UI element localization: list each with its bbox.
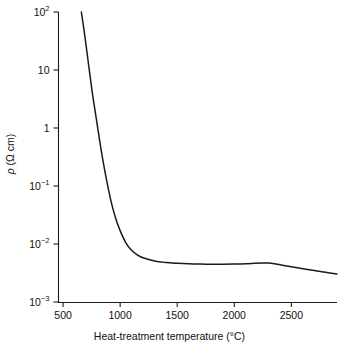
figure: 10210110−110−210−3 5001000150020002500 ρ… <box>0 0 339 349</box>
x-axis-tick-label: 1500 <box>166 310 189 321</box>
x-axis-tick-label: 1000 <box>108 310 131 321</box>
y-axis-tick-label: 10−2 <box>0 239 50 250</box>
y-axis-tick-label: 102 <box>0 7 50 18</box>
x-axis-tick-label: 2500 <box>280 310 303 321</box>
x-axis-tick-label: 500 <box>54 310 72 321</box>
x-axis-tick-label: 2000 <box>223 310 246 321</box>
y-axis-title: ρ (Ω cm) <box>4 111 16 197</box>
y-axis-ticks <box>54 12 59 302</box>
data-curve-resistivity <box>81 12 337 274</box>
y-axis-tick-label: 10−3 <box>0 297 50 308</box>
y-axis-tick-label: 10 <box>0 65 50 76</box>
x-axis-title: Heat-treatment temperature (°C) <box>0 330 339 342</box>
axis-lines <box>58 12 337 303</box>
plot-canvas <box>0 0 339 349</box>
